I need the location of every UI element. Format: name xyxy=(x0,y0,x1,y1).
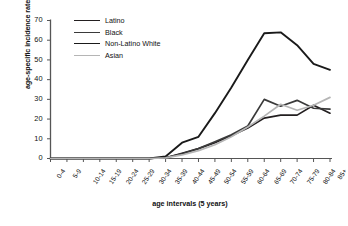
y-tick-label: 50 xyxy=(21,56,43,64)
y-tick-label: 30 xyxy=(21,95,43,103)
chart-legend: LatinoBlackNon-Latino WhiteAsian xyxy=(74,15,161,61)
legend-swatch-black xyxy=(74,32,100,33)
x-tick-label: 85+ xyxy=(335,167,347,180)
legend-label: Asian xyxy=(105,51,123,60)
legend-swatch-non-latino-white xyxy=(74,43,100,44)
legend-swatch-latino xyxy=(74,20,100,21)
legend-item-latino[interactable]: Latino xyxy=(74,15,161,27)
legend-item-black[interactable]: Black xyxy=(74,27,161,39)
y-tick-label: 60 xyxy=(21,36,43,44)
y-tick-label: 0 xyxy=(21,154,43,162)
legend-label: Latino xyxy=(105,16,125,25)
y-tick-label: 10 xyxy=(21,135,43,143)
legend-label: Black xyxy=(105,28,123,37)
legend-swatch-asian xyxy=(74,55,100,56)
series-line-black xyxy=(51,99,331,158)
y-tick-label: 20 xyxy=(21,115,43,123)
legend-item-asian[interactable]: Asian xyxy=(74,50,161,62)
y-tick-label: 70 xyxy=(21,16,43,24)
legend-item-non-latino-white[interactable]: Non-Latino White xyxy=(74,38,161,50)
series-line-asian xyxy=(51,97,331,158)
y-tick-label: 40 xyxy=(21,75,43,83)
legend-label: Non-Latino White xyxy=(105,39,161,48)
